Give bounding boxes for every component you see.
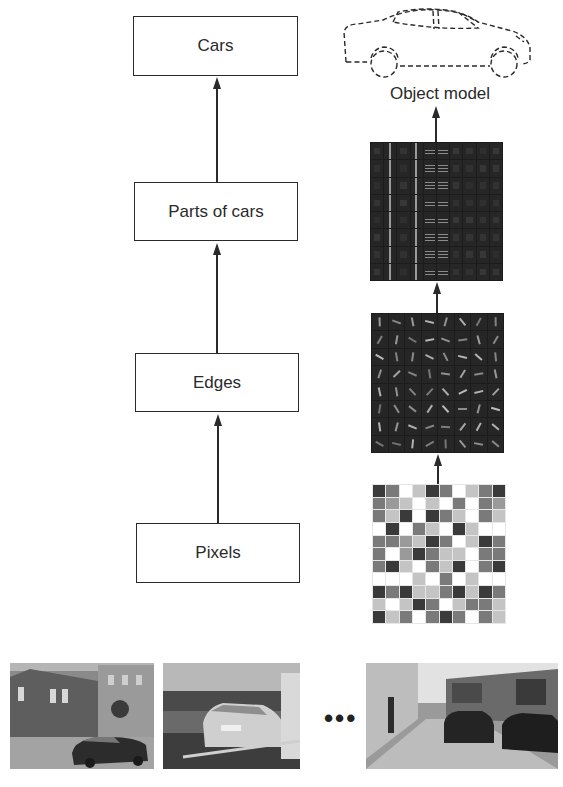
pixel-cell (479, 523, 491, 535)
pixel-grid (372, 484, 506, 624)
pixel-cell (426, 510, 438, 522)
edge-feature-cell (471, 314, 487, 330)
edge-feature-cell (488, 418, 504, 434)
pixel-cell (426, 561, 438, 573)
edge-feature-cell (488, 331, 504, 347)
parts-feature-cell (450, 229, 462, 245)
pixel-cell (413, 548, 425, 560)
pixel-cell (479, 485, 491, 497)
pixel-cell (373, 561, 385, 573)
edge-feature-cell (438, 401, 454, 417)
parts-feature-cell (411, 264, 423, 280)
parts-feature-cell (463, 160, 475, 176)
parts-feature-cell (437, 195, 449, 211)
pixel-cell (493, 561, 505, 573)
edge-feature-cell (488, 436, 504, 452)
edge-feature-cell (372, 314, 388, 330)
pixel-cell (373, 548, 385, 560)
parts-feature-cell (411, 212, 423, 228)
parts-feature-cell (477, 195, 489, 211)
edge-feature-cell (372, 331, 388, 347)
pixel-cell (440, 611, 452, 623)
pixel-cell (479, 548, 491, 560)
box-cars-label: Cars (198, 36, 234, 56)
pixel-cell (466, 586, 478, 598)
parts-feature-cell (490, 247, 502, 263)
parts-feature-cell (424, 212, 436, 228)
edge-feature-cell (438, 436, 454, 452)
pixel-cell (400, 498, 412, 510)
pixel-cell (426, 586, 438, 598)
pixel-cell (453, 523, 465, 535)
box-pixels-label: Pixels (195, 543, 240, 563)
pixel-cell (373, 510, 385, 522)
parts-feature-cell (411, 160, 423, 176)
parts-feature-cell (371, 212, 383, 228)
parts-feature-cell (424, 143, 436, 159)
edge-feature-cell (455, 436, 471, 452)
parts-feature-cell (450, 160, 462, 176)
edge-feature-cell (471, 401, 487, 417)
edge-feature-cell (372, 436, 388, 452)
pixel-cell (400, 536, 412, 548)
pixel-cell (453, 573, 465, 585)
pixel-cell (400, 586, 412, 598)
pixel-cell (413, 485, 425, 497)
pixel-cell (479, 536, 491, 548)
pixel-cell (440, 586, 452, 598)
pixel-cell (386, 548, 398, 560)
parts-feature-cell (384, 195, 396, 211)
parts-feature-cell (477, 264, 489, 280)
edge-feature-cell (389, 331, 405, 347)
parts-feature-cell (477, 229, 489, 245)
object-model-label: Object model (380, 84, 500, 104)
edge-feature-cell (372, 384, 388, 400)
pixel-cell (426, 573, 438, 585)
parts-feature-cell (450, 212, 462, 228)
pixel-cell (493, 573, 505, 585)
object-model-car-icon (338, 2, 538, 80)
parts-feature-cell (437, 264, 449, 280)
box-edges-label: Edges (193, 373, 241, 393)
pixel-cell (479, 498, 491, 510)
parts-feature-cell (477, 178, 489, 194)
pixel-cell (453, 498, 465, 510)
parts-feature-cell (424, 229, 436, 245)
pixel-cell (386, 510, 398, 522)
parts-feature-cell (490, 212, 502, 228)
pixel-cell (440, 548, 452, 560)
pixel-cell (479, 573, 491, 585)
pixel-cell (413, 561, 425, 573)
parts-feature-cell (463, 178, 475, 194)
pixel-cell (466, 573, 478, 585)
ellipsis-more-images: ••• (324, 703, 357, 734)
pixel-cell (373, 599, 385, 611)
pixel-cell (493, 510, 505, 522)
pixel-cell (413, 611, 425, 623)
parts-feature-cell (384, 178, 396, 194)
parts-feature-cell (411, 178, 423, 194)
edge-feature-cell (372, 349, 388, 365)
pixel-cell (479, 561, 491, 573)
pixel-cell (413, 510, 425, 522)
edge-feature-cell (405, 314, 421, 330)
parts-feature-cell (463, 195, 475, 211)
pixel-cell (426, 599, 438, 611)
pixel-cell (466, 599, 478, 611)
pixel-cell (493, 485, 505, 497)
parts-feature-cell (437, 178, 449, 194)
pixel-cell (466, 611, 478, 623)
pixel-cell (466, 548, 478, 560)
parts-feature-cell (424, 178, 436, 194)
pixel-cell (479, 599, 491, 611)
edge-feature-cell (471, 384, 487, 400)
pixel-cell (493, 586, 505, 598)
edge-feature-cell (471, 436, 487, 452)
parts-feature-cell (490, 143, 502, 159)
pixel-cell (440, 536, 452, 548)
parts-feature-cell (477, 212, 489, 228)
pixel-cell (453, 611, 465, 623)
edge-feature-cell (405, 349, 421, 365)
parts-feature-cell (490, 229, 502, 245)
photo-narrow-street-cars (366, 663, 558, 769)
